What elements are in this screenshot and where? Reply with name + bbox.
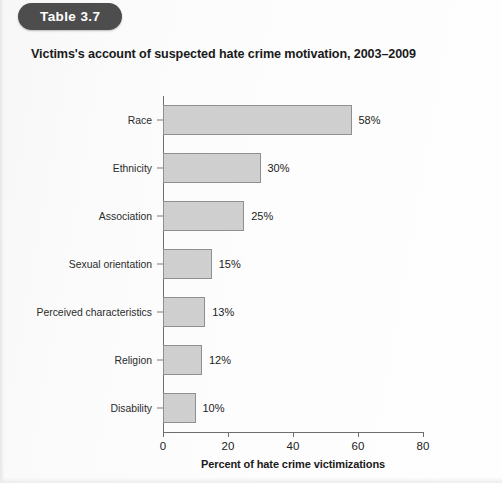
x-axis-tick-label: 40: [287, 440, 300, 452]
x-axis-tick: [228, 432, 229, 437]
bar: [163, 345, 202, 375]
bar: [163, 297, 205, 327]
category-label: Association: [99, 211, 152, 222]
x-axis-label: Percent of hate crime victimizations: [163, 458, 423, 470]
category-label: Disability: [110, 403, 152, 414]
x-axis-tick: [163, 432, 164, 437]
x-axis-tick-label: 80: [417, 440, 430, 452]
x-axis-tick: [423, 432, 424, 437]
bar: [163, 153, 261, 183]
bar-value-label: 58%: [359, 114, 381, 126]
bar-value-label: 25%: [251, 210, 273, 222]
bar: [163, 393, 196, 423]
bar: [163, 201, 244, 231]
x-axis-tick: [358, 432, 359, 437]
category-label: Perceived characteristics: [37, 307, 153, 318]
bar-value-label: 10%: [203, 402, 225, 414]
bar-value-label: 30%: [268, 162, 290, 174]
category-label: Sexual orientation: [69, 259, 152, 270]
x-axis-tick-label: 20: [222, 440, 235, 452]
bar-value-label: 13%: [212, 306, 234, 318]
bar-value-label: 15%: [219, 258, 241, 270]
x-axis-tick-label: 0: [160, 440, 166, 452]
category-label: Ethnicity: [113, 163, 152, 174]
bar: [163, 249, 212, 279]
x-axis-tick-label: 60: [352, 440, 365, 452]
bar: [163, 105, 352, 135]
bar-value-label: 12%: [209, 354, 231, 366]
category-label: Race: [128, 115, 152, 126]
bar-chart-plot: Race58%Ethnicity30%Association25%Sexual …: [0, 0, 502, 483]
category-label: Religion: [114, 355, 152, 366]
figure-panel: Table 3.7 Victims's account of suspected…: [0, 0, 502, 483]
x-axis-tick: [293, 432, 294, 437]
